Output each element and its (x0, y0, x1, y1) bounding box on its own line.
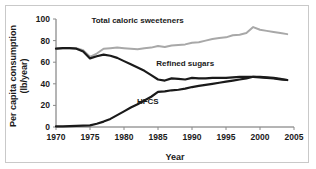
x-axis-tick-labels: 19701975198019851990199520002005 (47, 132, 304, 142)
y-tick-label: 0 (45, 122, 50, 132)
chart-axes (53, 19, 294, 130)
x-tick-label: 1980 (115, 132, 134, 142)
x-tick-label: 1995 (217, 132, 236, 142)
series-label-hfcs: HFCS (137, 97, 159, 106)
line-chart: 020406080100 197019751980198519901995200… (0, 0, 316, 169)
data-series-group (56, 27, 287, 126)
chart-figure: 020406080100 197019751980198519901995200… (0, 0, 316, 169)
x-tick-label: 1970 (47, 132, 66, 142)
series-label-refined-sugars: Refined sugars (156, 59, 214, 68)
y-tick-label: 80 (41, 36, 51, 46)
y-tick-label: 60 (41, 57, 51, 67)
y-axis-title-line2: (lb/year) (19, 58, 29, 93)
x-tick-label: 2005 (285, 132, 304, 142)
x-tick-label: 1975 (81, 132, 100, 142)
x-tick-label: 2000 (251, 132, 270, 142)
series-line-hfcs (56, 77, 287, 127)
axis-lines (56, 19, 294, 127)
y-tick-label: 40 (41, 79, 51, 89)
series-line-total-caloric-sweeteners (56, 27, 287, 57)
tick-marks (53, 19, 294, 130)
y-tick-label: 100 (36, 14, 50, 24)
x-tick-label: 1990 (183, 132, 202, 142)
series-label-total-caloric-sweeteners: Total caloric sweeteners (91, 16, 184, 25)
y-axis-title-line1: Per capita consumption (8, 25, 18, 127)
x-tick-label: 1985 (149, 132, 168, 142)
y-axis-tick-labels: 020406080100 (36, 14, 50, 132)
y-tick-label: 20 (41, 100, 51, 110)
x-axis-title: Year (165, 152, 185, 162)
series-inline-labels: Total caloric sweetenersRefined sugarsHF… (91, 16, 214, 106)
